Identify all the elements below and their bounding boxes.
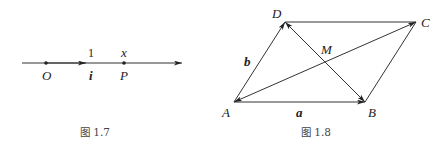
figure-1-7: O 1 i x P 图 1.7 xyxy=(22,45,182,138)
vertex-d-label: D xyxy=(271,6,282,21)
side-bc xyxy=(365,22,416,102)
vertex-a-label: A xyxy=(221,105,230,120)
midpoint-m-label: M xyxy=(320,42,333,57)
origin-label: O xyxy=(42,68,52,83)
vertex-c-label: C xyxy=(421,15,430,30)
origin-point-dot xyxy=(44,61,48,65)
point-value-x-label: x xyxy=(120,45,127,60)
figure-1-7-caption: 图 1.7 xyxy=(80,126,110,138)
vector-b-label: b xyxy=(244,54,251,69)
figure-1-8-caption: 图 1.8 xyxy=(301,126,331,138)
point-p-dot xyxy=(122,61,126,65)
vector-b-ad xyxy=(234,22,285,102)
unit-vector-i-label: i xyxy=(89,68,93,83)
unit-value-label: 1 xyxy=(88,46,94,60)
figure-canvas: O 1 i x P 图 1.7 D C A B M b a 图 1.8 xyxy=(0,0,446,153)
vertex-b-label: B xyxy=(368,105,376,120)
diagonal-db xyxy=(285,22,365,102)
vector-a-label: a xyxy=(296,105,303,120)
point-p-label: P xyxy=(119,68,128,83)
figure-1-8: D C A B M b a 图 1.8 xyxy=(221,6,430,138)
